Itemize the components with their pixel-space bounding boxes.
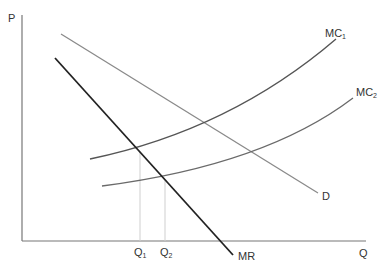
demand-label: D bbox=[322, 190, 330, 202]
demand-curve bbox=[61, 34, 318, 193]
mc1-curve bbox=[90, 39, 336, 159]
economics-diagram: P Q MC1 MC2 D MR Q1 Q2 bbox=[0, 0, 384, 274]
mr-label: MR bbox=[238, 250, 255, 262]
x-axis-label: Q bbox=[359, 247, 368, 259]
mr-curve bbox=[55, 58, 233, 255]
q1-label: Q1 bbox=[134, 246, 147, 259]
q2-label: Q2 bbox=[160, 246, 173, 259]
mc1-label: MC1 bbox=[325, 27, 346, 40]
mc2-label: MC2 bbox=[356, 86, 377, 99]
y-axis-label: P bbox=[8, 12, 15, 24]
